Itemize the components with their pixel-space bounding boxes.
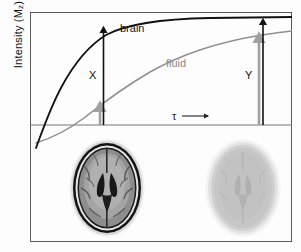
relaxation-plot: [30, 12, 292, 242]
y-axis-label-subscript: z: [16, 5, 25, 9]
left-brain-image-group: [62, 136, 152, 240]
fluid-curve-label: fluid: [166, 57, 186, 69]
y-axis-label-text: Intensity (M: [12, 9, 24, 68]
tau-axis-label: τ: [172, 110, 176, 122]
readout-y-label: Y: [245, 69, 252, 81]
brain-curve-label: brain: [120, 22, 144, 34]
y-axis-label-paren: ): [12, 1, 24, 5]
mri-t1-relaxation-figure: Intensity (Mz): [0, 0, 301, 252]
readout-x-label: X: [89, 69, 96, 81]
fluid-curve: [36, 31, 292, 143]
y-axis-label: Intensity (Mz): [12, 0, 25, 95]
right-brain-image-group: [198, 136, 288, 240]
